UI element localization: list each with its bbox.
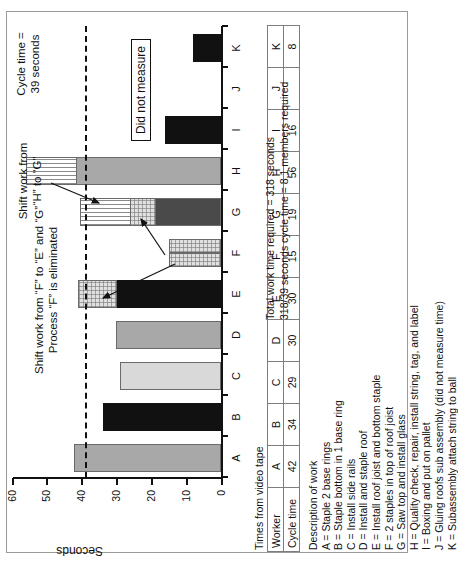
description-item-F: F = 2 staples in top of roof joist (383, 12, 396, 550)
note-shift-f-line2: Process “F” is eliminated (47, 180, 61, 400)
table-cell-cycletime-C: 29 (284, 362, 300, 404)
table-cell-worker-D: D (268, 320, 284, 362)
description-item-E: E = Install roof joist and bottom staple (370, 12, 383, 550)
bar-chart: Seconds 0 10 20 30 40 50 60 (7, 12, 249, 552)
table-cell-cycletime-D: 30 (284, 320, 300, 362)
note-cycle-time-line2: 39 seconds (29, 24, 43, 104)
description-item-I: I = Boxing and put on pallet (420, 12, 433, 550)
description-of-work-section: Description of work A = Staple 2 base ri… (307, 12, 458, 552)
description-item-D: D = Install and staple roof (357, 12, 370, 550)
table-cell-worker-K: K (268, 26, 284, 68)
summary-line-total-work-time: Total work time required = 318 seconds (263, 82, 277, 320)
table-cell-worker-A: A (268, 446, 284, 488)
table-cell-cycletime-B: 34 (284, 404, 300, 446)
arrow-f-to-g (141, 219, 165, 255)
description-title: Description of work (307, 12, 320, 552)
description-list: A = Staple 2 base rings B = Staple botto… (320, 12, 458, 552)
table-cell-worker-B: B (268, 404, 284, 446)
description-item-G: G = Saw top and install glass (395, 12, 408, 550)
note-cycle-time-line1: Cycle time = (15, 24, 29, 104)
note-shift-f-line1: Shift work from “F” to “E” and “G” (33, 180, 47, 400)
description-item-A: A = Staple 2 base rings (320, 12, 333, 550)
description-item-B: B = Staple bottom in 1 base ring (332, 12, 345, 550)
summary-line-members-required: 318/39 seconds cycle time = 8.1 members … (277, 82, 291, 320)
rotated-figure-stage: Seconds 0 10 20 30 40 50 60 (7, 12, 407, 552)
description-item-C: C = Install side rails (345, 12, 358, 550)
table-cell-worker-C: C (268, 362, 284, 404)
table-cell-cycletime-A: 42 (284, 446, 300, 488)
did-not-measure-callout: Did not measure (131, 39, 151, 141)
arrow-f-to-e (103, 264, 175, 298)
description-item-K: K = Subassembly attach string to ball (446, 12, 458, 550)
note-shift-h-to-g-line1: Shift work from (17, 126, 31, 236)
note-cycle-time: Cycle time = 39 seconds (15, 24, 42, 104)
description-item-H: H = Quality check, repair, install strin… (408, 12, 421, 550)
table-cell-cycletime-K: 8 (284, 26, 300, 68)
summary-text: Total work time required = 318 seconds 3… (263, 82, 291, 320)
table-row-header-worker: Worker (268, 488, 284, 552)
note-shift-f: Shift work from “F” to “E” and “G” Proce… (33, 180, 60, 400)
description-item-J: J = Gluing roofs sub assembly (did not m… (433, 12, 446, 550)
table-row-header-cycletime: Cycle time (284, 488, 300, 552)
figure-frame: Seconds 0 10 20 30 40 50 60 (6, 11, 408, 553)
